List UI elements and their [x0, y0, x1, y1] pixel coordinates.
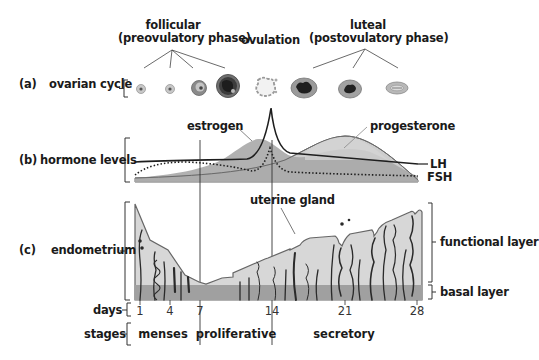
- follicular-pointer-lines: [144, 50, 225, 68]
- day-tick-28: 28: [410, 305, 425, 318]
- uterine-gland-pointer: [281, 208, 295, 234]
- section-c-letter: (c): [19, 244, 36, 257]
- stages-axis-label: stages: [84, 328, 126, 341]
- fsh-label: FSH: [427, 171, 452, 184]
- stage-secretory: secretory: [313, 328, 375, 341]
- day-tick-1: 1: [136, 305, 143, 318]
- gland-blob-4: [348, 219, 351, 222]
- corpus-albicans: [386, 82, 408, 94]
- follicle-primary-1: [137, 85, 146, 94]
- section-c-title: endometrium: [51, 244, 136, 257]
- day-tick-21: 21: [338, 305, 353, 318]
- stage-proliferative: proliferative: [196, 328, 277, 341]
- progesterone-label: progesterone: [370, 120, 455, 133]
- gland-blob-3: [340, 222, 344, 226]
- days-axis-label: days: [93, 304, 122, 317]
- luteal-phase-label: luteal (postovulatory phase): [309, 19, 427, 45]
- estrogen-label: estrogen: [187, 120, 243, 133]
- follicular-phase-label: follicular (preovulatory phase): [118, 19, 228, 45]
- day-tick-7: 7: [196, 305, 203, 318]
- basal-layer-bracket: [428, 285, 436, 299]
- gland-blob-2: [140, 246, 144, 250]
- functional-layer-bracket: [428, 203, 436, 282]
- basal-layer-band: [135, 285, 422, 300]
- section-a-title: ovarian cycle: [49, 78, 132, 91]
- ruptured-follicle-ovulation: [256, 78, 277, 96]
- follicle-secondary: [192, 81, 207, 96]
- follicular-label-line2: (preovulatory phase): [118, 32, 228, 45]
- gland-blob-1: [138, 239, 142, 243]
- corpus-luteum-1: [291, 78, 317, 98]
- day-tick-14: 14: [265, 305, 280, 318]
- section-b-title: hormone levels: [40, 154, 137, 167]
- section-a-letter: (a): [19, 78, 37, 91]
- basal-layer-label: basal layer: [440, 286, 509, 299]
- follicle-mature: [217, 75, 240, 98]
- corpus-luteum-2: [339, 80, 362, 98]
- days-bracket: [122, 303, 131, 316]
- stage-menses: menses: [138, 328, 187, 341]
- functional-layer-label: functional layer: [440, 236, 539, 249]
- luteal-pointer-lines: [313, 49, 398, 68]
- day-tick-4: 4: [166, 305, 173, 318]
- section-b-letter: (b): [19, 154, 37, 167]
- uterine-gland-label: uterine gland: [250, 194, 335, 207]
- follicle-primary-2: [166, 85, 175, 94]
- ovulation-label: ovulation: [241, 34, 300, 47]
- luteal-label-line2: (postovulatory phase): [309, 32, 427, 45]
